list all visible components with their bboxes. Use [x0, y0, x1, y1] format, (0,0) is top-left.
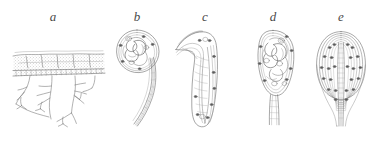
figure-label-a: a [50, 9, 57, 25]
illustration-plate: a b c d e [0, 0, 384, 152]
plate-drawing [0, 0, 384, 152]
figure-label-d: d [270, 9, 277, 25]
figure-label-e: e [338, 9, 344, 25]
figure-label-c: c [202, 9, 208, 25]
panel-c-drawing [176, 31, 217, 127]
panel-b-drawing [117, 30, 159, 126]
panel-e-drawing [317, 32, 366, 126]
panel-d-drawing [258, 30, 294, 124]
figure-label-b: b [134, 9, 141, 25]
panel-a-drawing [13, 51, 105, 127]
